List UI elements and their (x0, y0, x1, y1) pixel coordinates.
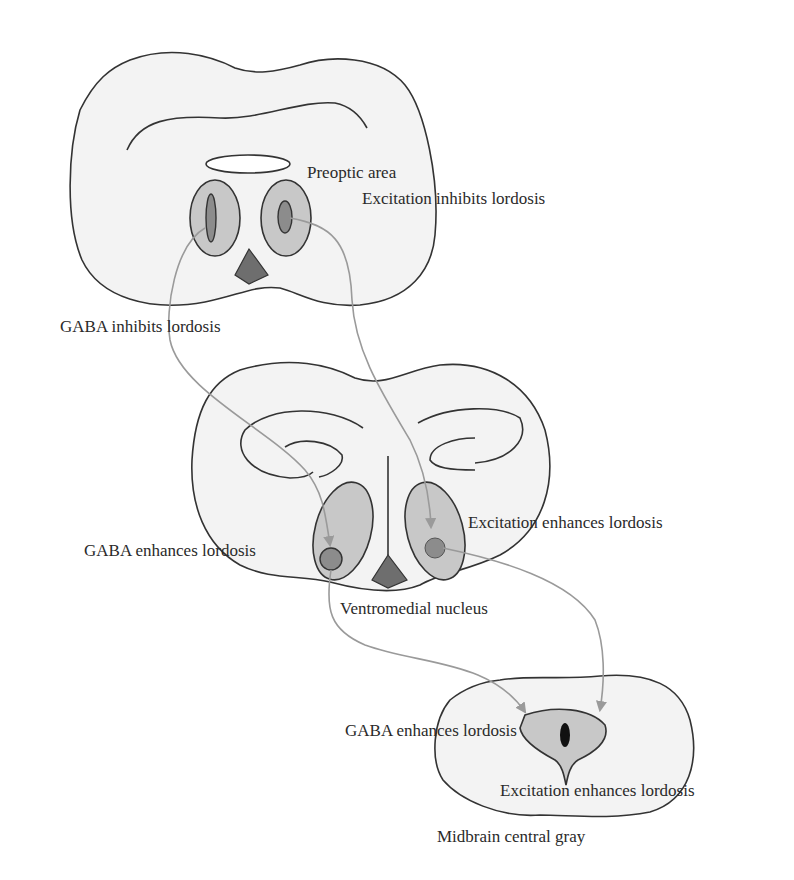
aqueduct (560, 723, 570, 747)
label-vmn-excitation: Excitation enhances lordosis (468, 514, 663, 531)
diagram-canvas: Preoptic area Excitation inhibits lordos… (0, 0, 794, 880)
label-cg-name: Midbrain central gray (437, 828, 585, 845)
poa-left-core (206, 194, 216, 242)
label-cg-excitation: Excitation enhances lordosis (500, 782, 695, 799)
diagram-svg (0, 0, 794, 880)
label-preoptic-area: Preoptic area (307, 164, 396, 181)
label-poa-gaba: GABA inhibits lordosis (60, 318, 221, 335)
optic-chiasm-oval (206, 155, 290, 173)
vmn-right-core (425, 538, 445, 558)
label-poa-excitation: Excitation inhibits lordosis (362, 190, 545, 207)
poa-right-core (278, 201, 292, 233)
label-vmn-gaba: GABA enhances lordosis (84, 542, 256, 559)
label-cg-gaba: GABA enhances lordosis (345, 722, 517, 739)
vmn-left-core (320, 548, 342, 570)
label-vmn-name: Ventromedial nucleus (340, 600, 488, 617)
